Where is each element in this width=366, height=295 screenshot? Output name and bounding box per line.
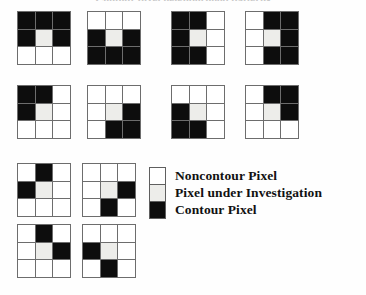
pattern-cell — [53, 104, 70, 121]
pattern-cell — [18, 121, 35, 138]
pattern-cell — [118, 225, 135, 242]
pattern-cell — [18, 164, 35, 181]
pattern-cell — [88, 86, 105, 103]
pattern-cell — [88, 30, 105, 47]
pattern-cell — [123, 86, 140, 103]
pattern-cell — [281, 30, 298, 47]
pattern-cell — [18, 225, 35, 242]
pattern-cell — [190, 12, 207, 29]
pattern-cell — [101, 260, 118, 277]
pattern-cell — [246, 121, 263, 138]
pattern-cell — [18, 30, 35, 47]
pattern-cell — [246, 104, 263, 121]
legend-label-0: Noncontour Pixel — [175, 167, 322, 184]
pattern-cell — [281, 104, 298, 121]
pattern-cell — [264, 121, 281, 138]
legend-swatch-0 — [150, 168, 165, 184]
pattern-cell — [36, 199, 53, 216]
pattern-cell — [36, 47, 53, 64]
pattern-cell — [207, 86, 224, 103]
pattern-grid-right-bar-and-top-bottom — [245, 11, 299, 65]
pattern-grid-lower-left-corner — [171, 85, 225, 139]
pattern-cell — [281, 12, 298, 29]
pattern-cell — [172, 30, 189, 47]
legend-swatch-column — [149, 167, 166, 219]
pattern-cell — [18, 260, 35, 277]
pattern-cell — [281, 121, 298, 138]
pattern-grid-right-and-bottom-neighbors — [82, 163, 136, 217]
pattern-cell — [172, 47, 189, 64]
pattern-cell — [264, 47, 281, 64]
legend-label-2: Contour Pixel — [175, 201, 322, 218]
pattern-cell — [83, 182, 100, 199]
pattern-cell — [281, 86, 298, 103]
pattern-cell — [53, 260, 70, 277]
pattern-cell — [101, 182, 118, 199]
pattern-cell — [172, 86, 189, 103]
pattern-grid-upper-right-corner — [245, 85, 299, 139]
pattern-cell — [172, 104, 189, 121]
pattern-cell — [123, 104, 140, 121]
pattern-cell — [53, 243, 70, 260]
pattern-cell — [264, 12, 281, 29]
pattern-cell — [83, 243, 100, 260]
pattern-cell — [118, 199, 135, 216]
pattern-cell — [123, 47, 140, 64]
pattern-cell — [88, 12, 105, 29]
pattern-cell — [101, 225, 118, 242]
pattern-cell — [88, 121, 105, 138]
pattern-cell — [106, 121, 123, 138]
pattern-cell — [118, 243, 135, 260]
pattern-cell — [207, 121, 224, 138]
pattern-grid-left-and-bottom-neighbors — [82, 224, 136, 278]
pattern-cell — [207, 47, 224, 64]
pattern-cell — [36, 86, 53, 103]
pattern-cell — [101, 243, 118, 260]
pattern-cell — [264, 86, 281, 103]
pattern-cell — [101, 164, 118, 181]
pattern-cell — [36, 182, 53, 199]
pattern-grid-lower-right-corner — [87, 85, 141, 139]
legend-label-column: Noncontour PixelPixel under Investigatio… — [175, 167, 322, 218]
pattern-cell — [190, 104, 207, 121]
pattern-cell — [88, 104, 105, 121]
legend: Noncontour PixelPixel under Investigatio… — [149, 167, 322, 219]
pattern-cell — [53, 47, 70, 64]
pattern-grid-top-and-left-neighbors — [17, 163, 71, 217]
pattern-cell — [53, 225, 70, 242]
pattern-cell — [172, 121, 189, 138]
pattern-cell — [36, 104, 53, 121]
pattern-cell — [83, 260, 100, 277]
pattern-cell — [36, 225, 53, 242]
pattern-cell — [53, 121, 70, 138]
pattern-cell — [36, 164, 53, 181]
pattern-cell — [264, 30, 281, 47]
pattern-cell — [36, 121, 53, 138]
pattern-cell — [207, 104, 224, 121]
pattern-cell — [264, 104, 281, 121]
pattern-cell — [18, 182, 35, 199]
legend-swatch-1 — [150, 185, 165, 201]
pattern-grid-top-and-right-neighbors — [17, 224, 71, 278]
pattern-cell — [106, 47, 123, 64]
pattern-cell — [118, 164, 135, 181]
pattern-grid-upper-left-corner — [17, 85, 71, 139]
pattern-cell — [190, 30, 207, 47]
pattern-cell — [106, 30, 123, 47]
clipped-caption-top: Contour pixel neighborhood patterns — [0, 0, 366, 1]
pattern-cell — [83, 225, 100, 242]
pattern-cell — [207, 12, 224, 29]
pattern-cell — [246, 47, 263, 64]
pattern-cell — [36, 30, 53, 47]
pattern-cell — [106, 86, 123, 103]
pattern-cell — [53, 164, 70, 181]
pattern-cell — [123, 12, 140, 29]
pattern-cell — [190, 47, 207, 64]
pattern-cell — [190, 86, 207, 103]
pattern-cell — [101, 199, 118, 216]
figure-canvas: Contour pixel neighborhood patterns Nonc… — [0, 0, 366, 295]
legend-swatch-2 — [150, 202, 165, 218]
pattern-cell — [172, 12, 189, 29]
pattern-cell — [53, 86, 70, 103]
pattern-cell — [123, 121, 140, 138]
